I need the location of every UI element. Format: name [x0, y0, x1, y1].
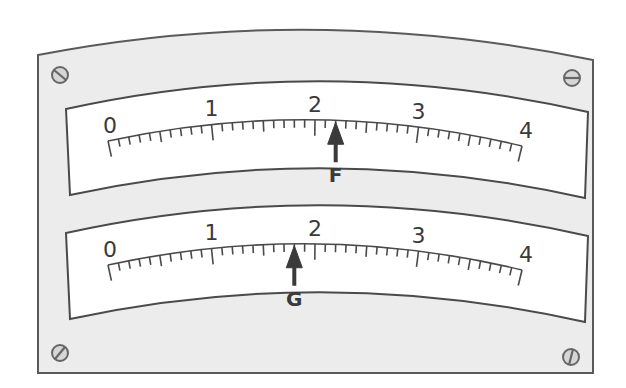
minor-tick	[191, 127, 192, 135]
scale-label: 1	[205, 220, 219, 245]
screw-top-right-icon	[564, 70, 580, 86]
minor-tick	[180, 128, 181, 136]
minor-tick	[243, 122, 244, 130]
scale-label: 0	[103, 237, 117, 262]
minor-tick	[428, 128, 429, 136]
minor-tick	[397, 249, 398, 257]
scale-label: 0	[103, 113, 117, 138]
minor-tick	[232, 123, 233, 131]
scale-label: 4	[519, 242, 533, 267]
scale-label: 2	[308, 92, 322, 117]
minor-tick	[407, 250, 408, 258]
minor-tick	[366, 122, 367, 133]
scale-label: 4	[519, 118, 533, 143]
scale-label: 3	[412, 99, 426, 124]
scale-label: 3	[412, 223, 426, 248]
scale-label: 1	[205, 96, 219, 121]
minor-tick	[387, 124, 388, 132]
minor-tick	[428, 252, 429, 260]
minor-tick	[397, 125, 398, 133]
minor-tick	[243, 246, 244, 254]
pointer-label: F	[329, 163, 343, 187]
minor-tick	[376, 247, 377, 255]
scale-label: 2	[308, 216, 322, 241]
screw-top-left-icon	[52, 67, 68, 83]
meter-panel: 01234F 01234G	[0, 0, 626, 388]
pointer-label: G	[286, 287, 302, 311]
minor-tick	[222, 123, 223, 131]
screw-bottom-right-icon	[563, 349, 579, 365]
minor-tick	[201, 126, 202, 134]
minor-tick	[191, 251, 192, 259]
minor-tick	[376, 123, 377, 131]
minor-tick	[366, 246, 367, 257]
minor-tick	[222, 247, 223, 255]
screw-bottom-left-icon	[52, 345, 68, 361]
minor-tick	[180, 252, 181, 260]
minor-tick	[387, 248, 388, 256]
minor-tick	[407, 126, 408, 134]
minor-tick	[201, 250, 202, 258]
meter-diagram: 01234F 01234G	[0, 0, 626, 388]
minor-tick	[232, 247, 233, 255]
